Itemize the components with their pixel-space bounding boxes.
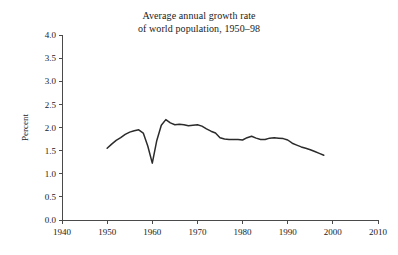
y-tick-label: 2.0 [45,123,57,133]
y-tick-label: 3.5 [45,53,57,63]
y-tick-label: 4.0 [45,30,57,40]
y-tick-label: 0.0 [45,215,57,225]
x-tick-label: 2010 [369,227,388,237]
data-line-series-0 [107,120,324,163]
line-chart-plot: 0.00.51.01.52.02.53.03.54.0 194019501960… [0,0,398,255]
data-series-group [107,120,324,163]
x-tick-label: 1980 [234,227,253,237]
y-tick-label: 1.0 [45,169,57,179]
y-tick-label: 1.5 [45,146,57,156]
chart-page: Average annual growth rate of world popu… [0,0,398,255]
y-axis: 0.00.51.01.52.02.53.03.54.0 [45,30,62,225]
x-tick-label: 1990 [279,227,298,237]
x-tick-label: 1950 [98,227,117,237]
y-tick-label: 3.0 [45,76,57,86]
y-tick-label: 0.5 [45,192,57,202]
x-tick-label: 2000 [324,227,343,237]
y-axis-title: Percent [20,114,30,141]
x-tick-label: 1960 [143,227,162,237]
y-tick-label: 2.5 [45,100,57,110]
x-axis: 19401950196019701980199020002010 [53,220,388,237]
x-tick-label: 1970 [188,227,207,237]
x-tick-label: 1940 [53,227,72,237]
